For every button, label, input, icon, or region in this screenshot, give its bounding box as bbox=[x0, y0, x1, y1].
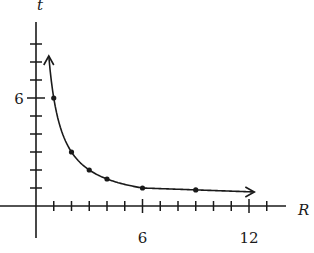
data-point bbox=[69, 149, 74, 154]
x-tick-label: 12 bbox=[239, 229, 258, 247]
data-point bbox=[87, 167, 92, 172]
data-point bbox=[193, 187, 198, 192]
data-point bbox=[51, 95, 56, 100]
data-curve bbox=[44, 56, 255, 197]
x-tick-label: 6 bbox=[138, 229, 148, 247]
data-points bbox=[51, 95, 198, 192]
tick-labels: 6126 bbox=[14, 90, 258, 247]
y-tick-label: 6 bbox=[14, 90, 24, 108]
hyperbola-chart: 6126 R t bbox=[0, 0, 314, 253]
data-point bbox=[140, 185, 145, 190]
y-axis-label: t bbox=[37, 0, 44, 14]
curve-line bbox=[49, 56, 255, 192]
data-point bbox=[104, 176, 109, 181]
x-axis-label: R bbox=[297, 201, 309, 219]
